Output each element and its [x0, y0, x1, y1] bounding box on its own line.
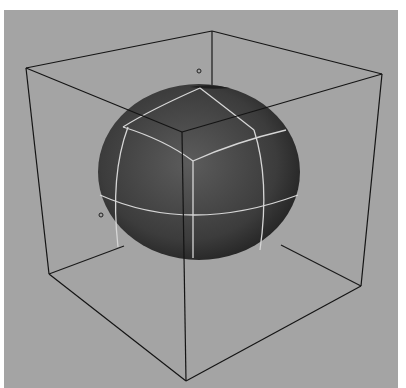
- scene-canvas[interactable]: [0, 0, 406, 388]
- pivot-marker-top[interactable]: [197, 69, 201, 73]
- pivot-marker-left[interactable]: [99, 213, 103, 217]
